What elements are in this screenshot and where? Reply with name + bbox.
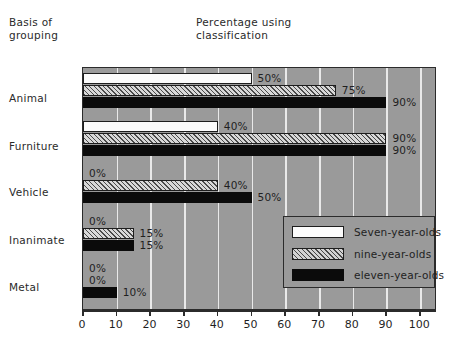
- x-tick: [183, 310, 185, 316]
- x-tick: [251, 310, 253, 316]
- x-axis: [82, 310, 436, 312]
- bar[interactable]: [83, 85, 336, 96]
- legend-label: Seven-year-olds: [354, 225, 441, 239]
- x-tick-label: 80: [345, 318, 359, 331]
- bar-value-label: 10%: [123, 285, 147, 299]
- bar-row: 50%: [83, 73, 437, 84]
- bar-row: 90%: [83, 97, 437, 108]
- bar[interactable]: [83, 240, 134, 251]
- bar[interactable]: [83, 145, 386, 156]
- bar-value-label: 50%: [258, 71, 282, 85]
- x-tick: [82, 310, 84, 316]
- x-tick: [284, 310, 286, 316]
- bar-row: 40%: [83, 121, 437, 132]
- x-tick-label: 100: [409, 318, 430, 331]
- percentage-using-classification-heading: Percentage using classification: [196, 16, 292, 42]
- bar-value-label: 0%: [89, 166, 106, 180]
- bar-value-label: 15%: [140, 238, 164, 252]
- x-tick-label: 50: [244, 318, 258, 331]
- bar-row: 90%: [83, 145, 437, 156]
- legend-label: eleven-year-olds: [354, 268, 444, 282]
- x-tick: [217, 310, 219, 316]
- bar[interactable]: [83, 133, 386, 144]
- bar-value-label: 0%: [89, 214, 106, 228]
- x-tick-label: 10: [109, 318, 123, 331]
- category-label-metal: Metal: [9, 281, 40, 294]
- bar-row: 10%: [83, 287, 437, 298]
- figure: Basis of grouping Percentage using class…: [0, 0, 463, 351]
- bar-value-label: 90%: [392, 95, 416, 109]
- category-label-inanimate: Inanimate: [9, 234, 65, 247]
- legend-swatch: [292, 226, 344, 238]
- bar-row: 50%: [83, 192, 437, 203]
- x-tick: [116, 310, 118, 316]
- bar[interactable]: [83, 180, 218, 191]
- bar[interactable]: [83, 73, 252, 84]
- bar[interactable]: [83, 287, 117, 298]
- x-tick-label: 60: [277, 318, 291, 331]
- bar-value-label: 40%: [224, 119, 248, 133]
- x-tick-label: 20: [142, 318, 156, 331]
- x-tick-label: 40: [210, 318, 224, 331]
- x-tick-label: 90: [378, 318, 392, 331]
- legend-swatch: [292, 269, 344, 281]
- bar-row: 0%: [83, 168, 437, 179]
- bar-row: 75%: [83, 85, 437, 96]
- bar-value-label: 75%: [342, 83, 366, 97]
- bar-value-label: 0%: [89, 273, 106, 287]
- bar[interactable]: [83, 192, 252, 203]
- x-tick-label: 30: [176, 318, 190, 331]
- x-tick-label: 0: [79, 318, 86, 331]
- category-label-animal: Animal: [9, 92, 47, 105]
- legend-label: nine-year-olds: [354, 247, 431, 261]
- bar[interactable]: [83, 228, 134, 239]
- bar[interactable]: [83, 97, 386, 108]
- bar-row: 90%: [83, 133, 437, 144]
- basis-of-grouping-heading: Basis of grouping: [9, 16, 58, 42]
- legend: Seven-year-oldsnine-year-oldseleven-year…: [283, 216, 435, 288]
- x-tick: [419, 310, 421, 316]
- bar-value-label: 90%: [392, 143, 416, 157]
- x-tick: [318, 310, 320, 316]
- bar[interactable]: [83, 121, 218, 132]
- bar-value-label: 40%: [224, 178, 248, 192]
- category-label-furniture: Furniture: [9, 140, 59, 153]
- x-tick-label: 70: [311, 318, 325, 331]
- x-tick: [352, 310, 354, 316]
- category-label-vehicle: Vehicle: [9, 186, 49, 199]
- legend-swatch: [292, 248, 344, 260]
- x-tick: [385, 310, 387, 316]
- x-tick: [149, 310, 151, 316]
- bar-value-label: 50%: [258, 190, 282, 204]
